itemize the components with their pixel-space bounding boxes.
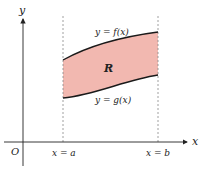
curve-f-label: y = f(x) (94, 27, 129, 37)
region-between-curves-diagram: y x O x = a x = b y = f(x) y = g(x) R (0, 0, 210, 170)
x-equals-a-label: x = a (52, 148, 76, 158)
curve-g-label: y = g(x) (94, 95, 132, 105)
x-axis-label: x (192, 135, 199, 148)
region-r-label: R (103, 62, 113, 75)
origin-label: O (11, 146, 19, 157)
diagram-canvas: y x O x = a x = b y = f(x) y = g(x) R (0, 0, 210, 170)
y-axis-label: y (18, 4, 26, 17)
x-equals-b-label: x = b (146, 148, 170, 158)
